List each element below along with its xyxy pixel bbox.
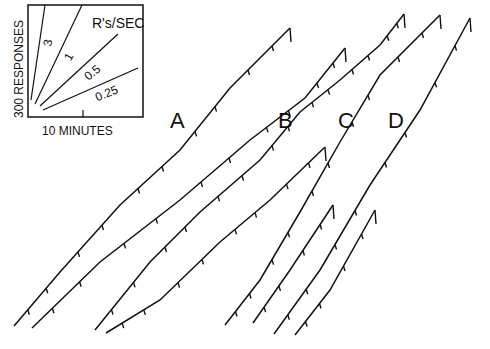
reinforcement-pip <box>46 288 48 293</box>
reinforcement-pip <box>144 310 146 315</box>
reinforcement-pip <box>52 308 54 313</box>
reinforcement-pip <box>112 310 114 315</box>
reinforcement-pip <box>195 131 197 136</box>
reinforcement-pip <box>80 282 82 287</box>
reinforcement-pip <box>306 289 308 294</box>
rate-label-3: 3 <box>40 38 55 47</box>
reinforcement-pip <box>397 23 399 28</box>
reinforcement-pip <box>287 184 289 189</box>
reinforcement-pip <box>218 196 220 201</box>
reinforcement-pip <box>178 283 180 288</box>
panel-label-d: D <box>388 108 404 133</box>
reinforcement-pip <box>235 229 237 234</box>
reinforcement-pip <box>156 219 158 224</box>
reinforcement-pip <box>272 260 274 265</box>
reinforcement-pip <box>255 213 257 218</box>
curve-7 <box>295 210 375 335</box>
reinforcement-pip <box>320 225 322 230</box>
reinforcement-pip <box>335 245 337 250</box>
reinforcement-pip <box>387 36 389 41</box>
reinforcement-pip <box>272 146 274 151</box>
reinforcement-pip <box>288 232 290 237</box>
reinforcement-pip <box>165 247 167 252</box>
reinforcement-pip <box>134 282 136 287</box>
reinforcement-pip <box>267 127 269 132</box>
curve-6 <box>274 18 470 334</box>
reinforcement-pip <box>312 102 314 107</box>
reinforcement-pip <box>352 70 354 75</box>
reinforcement-pip <box>236 312 238 317</box>
reinforcement-pip <box>435 82 437 87</box>
inset-rate-legend: R's/SEC 3 1 0.5 0.25 300 RESPONSES 10 MI… <box>12 5 144 138</box>
reinforcement-pip <box>138 189 140 194</box>
reset-tick <box>345 48 346 62</box>
reset-tick <box>470 18 471 32</box>
reinforcement-pip <box>242 176 244 181</box>
reinforcement-pip <box>385 163 387 168</box>
rate-title: R's/SEC <box>92 15 144 31</box>
reinforcement-pip <box>309 163 311 168</box>
reinforcement-pip <box>162 167 164 172</box>
panel-label-b: B <box>278 108 293 133</box>
reinforcement-pip <box>303 251 305 256</box>
reinforcement-pip <box>455 46 457 51</box>
reinforcement-pip <box>185 227 187 232</box>
rate-label-1: 1 <box>61 50 77 63</box>
reinforcement-pip <box>215 107 217 112</box>
reinforcement-pip <box>328 163 330 168</box>
reset-tick <box>325 147 326 161</box>
cumulative-curves <box>14 14 471 335</box>
reinforcement-pip <box>250 294 252 299</box>
reinforcement-pip <box>102 225 104 230</box>
reinforcement-pip <box>368 95 370 100</box>
reinforcement-pip <box>405 133 407 138</box>
reset-tick <box>440 15 441 29</box>
reinforcement-pip <box>317 83 319 88</box>
reset-tick <box>290 28 291 42</box>
reinforcement-pip <box>362 234 364 239</box>
y-axis-label: 300 RESPONSES <box>12 20 26 118</box>
reinforcement-pip <box>272 46 274 51</box>
reinforcement-pip <box>320 304 322 309</box>
panel-labels: ABCD <box>170 108 404 133</box>
reinforcement-pip <box>122 323 124 328</box>
reinforcement-pip <box>333 63 335 68</box>
x-axis-label: 10 MINUTES <box>42 124 113 138</box>
reinforcement-pip <box>264 307 266 312</box>
reset-tick <box>375 210 376 224</box>
reset-tick <box>404 14 405 28</box>
curve-3 <box>106 147 325 333</box>
reinforcement-pip <box>229 158 231 163</box>
curve-1 <box>32 48 345 328</box>
reinforcement-pip <box>288 315 290 320</box>
cumulative-record-figure: R's/SEC 3 1 0.5 0.25 300 RESPONSES 10 MI… <box>0 0 490 349</box>
reinforcement-pip <box>328 90 330 95</box>
reinforcement-pip <box>279 286 281 291</box>
reinforcement-pip <box>398 57 400 62</box>
reset-tick <box>333 205 334 219</box>
reinforcement-pip <box>124 243 126 248</box>
reinforcement-pip <box>28 310 30 315</box>
reinforcement-pip <box>422 33 424 38</box>
reinforcement-pip <box>306 322 308 327</box>
reinforcement-pip <box>202 259 204 264</box>
reinforcement-pip <box>344 266 346 271</box>
curve-2 <box>95 14 404 330</box>
panel-label-c: C <box>338 108 354 133</box>
reinforcement-pip <box>201 182 203 187</box>
reinforcement-pip <box>355 211 357 216</box>
reinforcement-pip <box>248 70 250 75</box>
panel-label-a: A <box>170 108 185 133</box>
reinforcement-pip <box>368 56 370 61</box>
reinforcement-pip <box>78 252 80 257</box>
reinforcement-pip <box>312 191 314 196</box>
